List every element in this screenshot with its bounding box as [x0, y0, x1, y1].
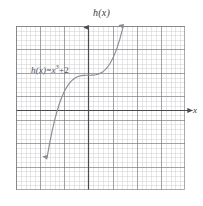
axes-and-curve-overlay	[0, 0, 203, 206]
graph-figure: h(x) h(x)=x3+2 x	[0, 0, 203, 206]
function-curve	[47, 26, 123, 157]
equation-annotation: h(x)=x3+2	[31, 64, 69, 75]
x-axis-title: x	[193, 105, 197, 115]
equation-constant: 2	[64, 65, 69, 75]
equation-lhs: h(x)	[31, 65, 46, 75]
